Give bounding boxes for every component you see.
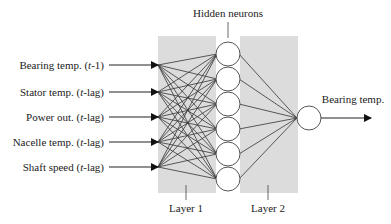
hidden-neuron	[216, 42, 240, 66]
hidden-neurons-label: Hidden neurons	[193, 7, 263, 19]
hidden-neuron	[216, 92, 240, 116]
input-features: Bearing temp. (t-1)Stator temp. (t-lag)P…	[13, 59, 158, 174]
hidden-neuron	[216, 117, 240, 141]
layer-1-label: Layer 1	[169, 202, 203, 214]
input-item: Bearing temp. (t-1)	[19, 59, 158, 72]
layer-2-label: Layer 2	[251, 202, 285, 214]
hidden-neurons	[216, 42, 240, 191]
hidden-neuron	[216, 167, 240, 191]
input-label: Nacelle temp. (t-lag)	[13, 136, 105, 149]
input-item: Shaft speed (t-lag)	[23, 161, 158, 174]
layer-2-region	[240, 36, 298, 193]
output-label: Bearing temp.	[322, 93, 385, 105]
input-label: Stator temp. (t-lag)	[20, 86, 104, 99]
input-label: Bearing temp. (t-1)	[19, 59, 104, 72]
hidden-neuron	[216, 142, 240, 166]
input-item: Nacelle temp. (t-lag)	[13, 136, 158, 149]
input-label: Shaft speed (t-lag)	[23, 161, 105, 174]
hidden-neuron	[216, 67, 240, 91]
neural-network-diagram: Bearing temp. (t-1)Stator temp. (t-lag)P…	[0, 0, 391, 224]
output-neuron	[297, 106, 321, 130]
input-label: Power out. (t-lag)	[26, 111, 104, 124]
input-item: Power out. (t-lag)	[26, 111, 158, 124]
input-item: Stator temp. (t-lag)	[20, 86, 158, 99]
